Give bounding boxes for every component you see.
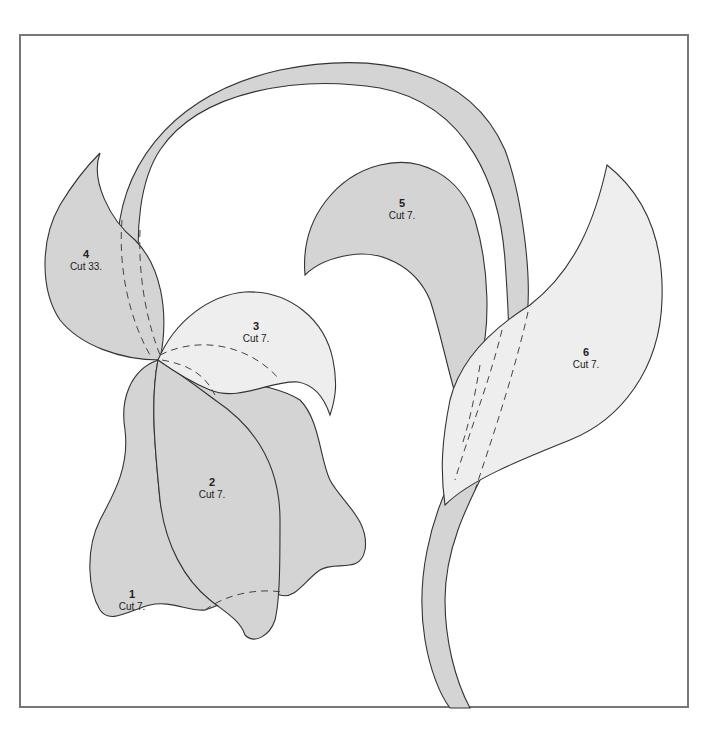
piece-4-label: 4 Cut 33. xyxy=(70,248,102,272)
piece-6-label: 6 Cut 7. xyxy=(573,346,600,370)
piece-2-number: 2 xyxy=(199,476,226,489)
piece-3-instruction: Cut 7. xyxy=(243,333,270,345)
piece-5-number: 5 xyxy=(389,197,416,210)
piece-4-instruction: Cut 33. xyxy=(70,261,102,273)
piece-2-instruction: Cut 7. xyxy=(199,489,226,501)
piece-1-label: 1 Cut 7. xyxy=(119,588,146,612)
piece-6-number: 6 xyxy=(573,346,600,359)
piece-2-label: 2 Cut 7. xyxy=(199,476,226,500)
piece-6-instruction: Cut 7. xyxy=(573,359,600,371)
piece-1-number: 1 xyxy=(119,588,146,601)
piece-5-label: 5 Cut 7. xyxy=(389,197,416,221)
leaf-4-shape xyxy=(45,153,164,360)
piece-3-number: 3 xyxy=(243,320,270,333)
pattern-drawing xyxy=(0,0,716,734)
piece-4-number: 4 xyxy=(70,248,102,261)
piece-3-label: 3 Cut 7. xyxy=(243,320,270,344)
piece-1-instruction: Cut 7. xyxy=(119,601,146,613)
pattern-canvas: 1 Cut 7. 2 Cut 7. 3 Cut 7. 4 Cut 33. 5 C… xyxy=(0,0,716,734)
piece-5-instruction: Cut 7. xyxy=(389,210,416,222)
